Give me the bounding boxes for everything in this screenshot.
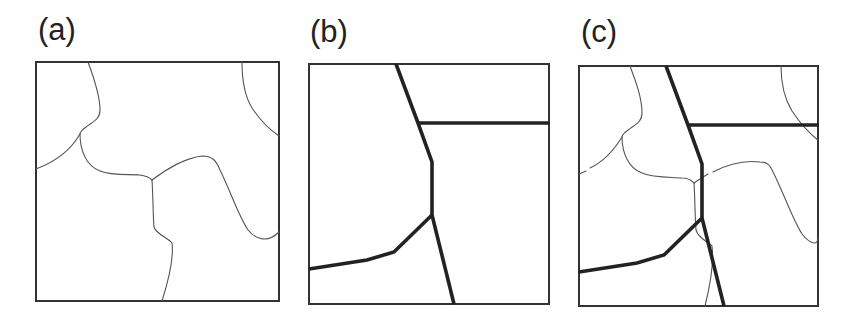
figure-canvas [0,0,853,320]
panel-c-thin-curves [579,66,818,306]
panel-b [309,64,549,304]
panel-c-frame [579,66,818,306]
panel-b-frame [309,64,549,304]
panel-b-thick-segments [309,64,549,304]
panel-a-thin-curves [36,62,279,301]
panel-c [579,66,819,306]
panel-a-frame [36,62,279,301]
panel-c-thick-segments [579,66,819,306]
panel-a [36,62,279,301]
